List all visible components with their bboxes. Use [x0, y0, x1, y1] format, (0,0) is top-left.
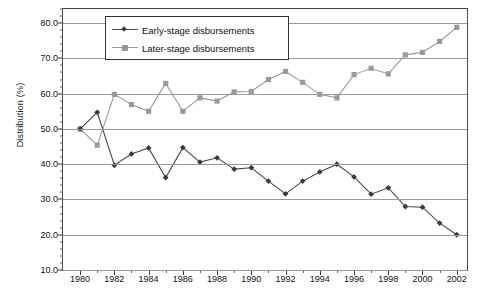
data-point-marker — [180, 109, 185, 114]
legend-label-early: Early-stage disbursements — [142, 25, 254, 36]
data-point-marker — [317, 169, 323, 175]
x-tick-label: 2002 — [437, 274, 477, 284]
data-point-marker — [300, 80, 305, 85]
y-tick-label: 30.0 — [22, 194, 58, 204]
data-point-marker — [129, 102, 134, 107]
gridline-y — [63, 94, 467, 95]
data-point-marker — [334, 95, 339, 100]
legend-marker-early — [112, 24, 138, 36]
y-tick-label: 40.0 — [22, 159, 58, 169]
data-point-marker — [437, 39, 442, 44]
y-tick-label: 10.0 — [22, 265, 58, 275]
x-tick-mark — [149, 271, 150, 275]
data-point-marker — [197, 95, 202, 100]
chart-figure: Distribution (%) 10.020.030.040.050.060.… — [0, 0, 482, 295]
data-point-marker — [369, 66, 374, 71]
x-minor-tick — [97, 271, 98, 273]
data-point-marker — [146, 109, 151, 114]
x-tick-mark — [217, 271, 218, 275]
data-point-marker — [95, 143, 100, 148]
data-point-marker — [351, 72, 356, 77]
legend-item-early: Early-stage disbursements — [112, 21, 282, 39]
x-minor-tick — [166, 271, 167, 273]
y-tick-label: 60.0 — [22, 89, 58, 99]
data-point-marker — [420, 50, 425, 55]
x-tick-mark — [457, 271, 458, 275]
x-minor-tick — [337, 271, 338, 273]
y-tick-label: 80.0 — [22, 18, 58, 28]
data-point-marker — [283, 69, 288, 74]
gridline-y — [63, 235, 467, 236]
data-point-marker — [403, 52, 408, 57]
data-point-marker — [266, 77, 271, 82]
legend-marker-later — [112, 42, 138, 54]
x-tick-mark — [422, 271, 423, 275]
data-point-marker — [214, 155, 220, 161]
legend-label-later: Later-stage disbursements — [142, 43, 254, 54]
x-tick-mark — [320, 271, 321, 275]
data-point-marker — [163, 81, 168, 86]
data-point-marker — [163, 175, 169, 181]
y-tick-label: 50.0 — [22, 124, 58, 134]
chart-legend: Early-stage disbursements Later-stage di… — [105, 16, 289, 60]
gridline-y — [63, 199, 467, 200]
x-tick-mark — [80, 271, 81, 275]
gridline-y — [63, 270, 467, 271]
y-tick-label: 70.0 — [22, 53, 58, 63]
data-point-marker — [231, 166, 237, 172]
series-line — [80, 112, 457, 234]
x-minor-tick — [268, 271, 269, 273]
data-point-marker — [214, 98, 219, 103]
x-minor-tick — [303, 271, 304, 273]
data-point-marker — [146, 145, 152, 151]
data-point-marker — [129, 151, 135, 157]
x-tick-mark — [388, 271, 389, 275]
x-tick-mark — [251, 271, 252, 275]
x-tick-mark — [183, 271, 184, 275]
x-tick-mark — [354, 271, 355, 275]
x-tick-mark — [286, 271, 287, 275]
x-minor-tick — [200, 271, 201, 273]
x-minor-tick — [405, 271, 406, 273]
y-axis-title: Distribution (%) — [15, 65, 25, 165]
data-point-marker — [386, 71, 391, 76]
x-minor-tick — [440, 271, 441, 273]
x-minor-tick — [371, 271, 372, 273]
x-minor-tick — [131, 271, 132, 273]
y-tick-label: 20.0 — [22, 230, 58, 240]
data-point-marker — [454, 25, 459, 30]
gridline-y — [63, 164, 467, 165]
legend-item-later: Later-stage disbursements — [112, 39, 282, 57]
x-minor-tick — [234, 271, 235, 273]
x-tick-mark — [114, 271, 115, 275]
gridline-y — [63, 129, 467, 130]
